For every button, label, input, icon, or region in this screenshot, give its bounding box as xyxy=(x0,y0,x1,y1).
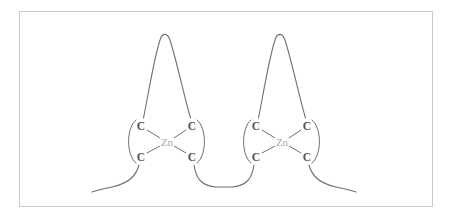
left-bond-upper-left xyxy=(147,130,160,138)
structure-diagram: C C C C Zn C C C C Zn xyxy=(0,0,453,223)
right-site-ligand-upper-right-label: C xyxy=(303,120,311,132)
left-terminal-tail xyxy=(92,165,139,192)
right-bond-lower-left xyxy=(262,146,275,153)
right-site-ligand-lower-right-label: C xyxy=(303,151,311,163)
right-site-metal-label: Zn xyxy=(276,136,289,148)
left-site-metal-label: Zn xyxy=(161,136,174,148)
right-bond-lower-right xyxy=(289,146,301,153)
figure-root: C C C C Zn C C C C Zn xyxy=(0,0,453,223)
right-terminal-tail xyxy=(309,165,356,192)
inter-site-linker xyxy=(194,165,254,187)
right-site-ligand-lower-left-label: C xyxy=(252,151,260,163)
right-site-ligand-upper-left-label: C xyxy=(252,120,260,132)
left-site-ligand-lower-left-label: C xyxy=(137,151,145,163)
left-hairpin-loop xyxy=(144,34,191,118)
left-bond-lower-left xyxy=(147,146,160,153)
right-hairpin-loop xyxy=(259,34,306,118)
left-site-ligand-upper-left-label: C xyxy=(137,120,145,132)
left-site-ligand-upper-right-label: C xyxy=(188,120,196,132)
left-bond-lower-right xyxy=(174,146,186,153)
left-bond-upper-right xyxy=(174,130,186,138)
left-site-ligand-lower-right-label: C xyxy=(188,151,196,163)
right-bond-upper-right xyxy=(289,130,301,138)
right-bond-upper-left xyxy=(262,130,275,138)
